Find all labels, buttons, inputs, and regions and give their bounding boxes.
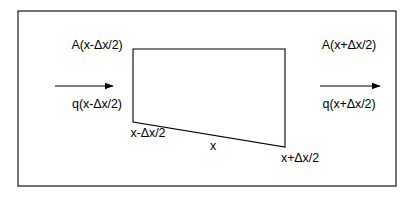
- label-flux-left: q(x-Δx/2): [72, 98, 122, 111]
- label-area-right: A(x+Δx/2): [322, 39, 376, 52]
- label-x-minus-half-delta: x-Δx/2: [131, 127, 166, 140]
- figure-container: A(x-Δx/2) q(x-Δx/2) A(x+Δx/2) q(x+Δx/2) …: [0, 0, 415, 200]
- label-x-center: x: [210, 140, 216, 153]
- label-flux-right: q(x+Δx/2): [323, 98, 376, 111]
- label-area-left: A(x-Δx/2): [71, 39, 122, 52]
- label-x-plus-half-delta: x+Δx/2: [281, 152, 319, 165]
